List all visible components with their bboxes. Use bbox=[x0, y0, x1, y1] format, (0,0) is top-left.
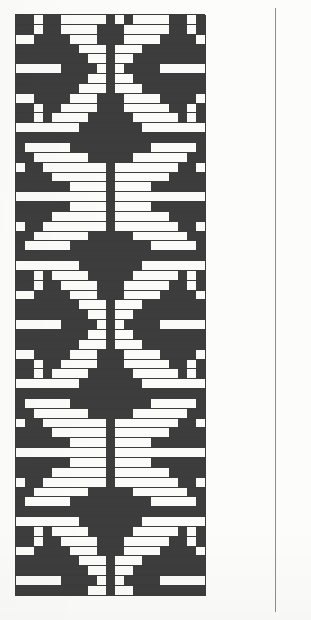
chart-cell bbox=[196, 419, 206, 429]
chart-cell bbox=[196, 113, 206, 123]
chart-cell bbox=[196, 74, 206, 84]
chart-cell bbox=[196, 428, 206, 438]
chart-cell bbox=[196, 379, 206, 389]
chart-cell bbox=[196, 15, 206, 25]
chart-cell bbox=[196, 310, 206, 320]
chart-cell bbox=[196, 123, 206, 133]
chart-cell bbox=[196, 468, 206, 478]
chart-cell bbox=[196, 576, 206, 586]
chart-cell bbox=[196, 54, 206, 64]
chart-cell bbox=[196, 389, 206, 399]
chart-cell bbox=[196, 202, 206, 212]
chart-cell bbox=[196, 320, 206, 330]
chart-cell bbox=[196, 360, 206, 370]
chart-cell bbox=[196, 586, 206, 596]
chart-cell bbox=[196, 350, 206, 360]
chart-cell bbox=[196, 458, 206, 468]
chart-cell bbox=[196, 241, 206, 251]
page-column-rule bbox=[275, 8, 276, 612]
chart-cell bbox=[196, 222, 206, 232]
chart-grid bbox=[15, 14, 205, 596]
chart-cell bbox=[196, 25, 206, 35]
chart-cell bbox=[196, 94, 206, 104]
chart-cell bbox=[196, 143, 206, 153]
chart-cell bbox=[196, 497, 206, 507]
chart-cell bbox=[196, 64, 206, 74]
chart-cell bbox=[196, 409, 206, 419]
chart-cell bbox=[196, 399, 206, 409]
chart-cell bbox=[196, 478, 206, 488]
chart-cell bbox=[196, 556, 206, 566]
chart-cell bbox=[196, 261, 206, 271]
chart-cell bbox=[196, 340, 206, 350]
chart-cell bbox=[196, 300, 206, 310]
chart-cell bbox=[196, 547, 206, 557]
chart-cell bbox=[196, 212, 206, 222]
chart-cell bbox=[196, 448, 206, 458]
chart-cell bbox=[196, 330, 206, 340]
chart-cell bbox=[196, 163, 206, 173]
chart-cell bbox=[196, 281, 206, 291]
chart-cell bbox=[196, 271, 206, 281]
chart-cell bbox=[196, 527, 206, 537]
chart-cell bbox=[196, 104, 206, 114]
chart-cell bbox=[196, 192, 206, 202]
chart-cell bbox=[196, 84, 206, 94]
chart-cell bbox=[196, 173, 206, 183]
chart-cell bbox=[196, 291, 206, 301]
chart-cell bbox=[196, 438, 206, 448]
chart-cell bbox=[196, 232, 206, 242]
chart-cell bbox=[196, 133, 206, 143]
chart-cell bbox=[196, 153, 206, 163]
chart-cell bbox=[196, 507, 206, 517]
chart-cell bbox=[196, 182, 206, 192]
knitting-chart bbox=[15, 14, 205, 596]
chart-cell bbox=[196, 369, 206, 379]
chart-cell bbox=[196, 488, 206, 498]
scanned-page bbox=[0, 0, 311, 620]
chart-cell bbox=[196, 517, 206, 527]
chart-cell bbox=[196, 45, 206, 55]
chart-cell bbox=[196, 251, 206, 261]
chart-cell bbox=[196, 35, 206, 45]
chart-cell bbox=[196, 566, 206, 576]
chart-cell bbox=[196, 537, 206, 547]
